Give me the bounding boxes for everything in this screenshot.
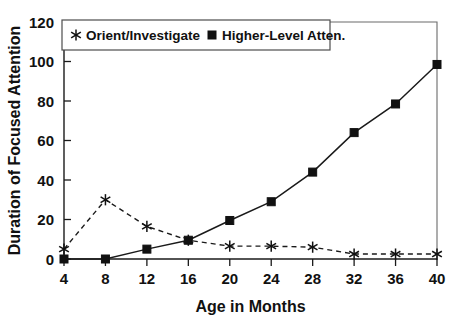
x-tick-label: 36 — [387, 270, 404, 287]
x-tick-label: 4 — [60, 270, 69, 287]
y-tick-label: 80 — [37, 93, 54, 110]
data-point-marker-square — [184, 236, 192, 244]
line-chart-canvas: 020406080100120481216202428323640Age in … — [0, 0, 451, 323]
x-tick-label: 28 — [304, 270, 321, 287]
data-point-marker-square — [143, 245, 151, 253]
x-axis-title: Age in Months — [195, 298, 305, 315]
legend-entry-1[interactable]: Orient/Investigate — [71, 28, 200, 43]
x-tick-label: 40 — [429, 270, 446, 287]
x-tick-label: 16 — [180, 270, 197, 287]
data-point-marker-square — [309, 168, 317, 176]
y-tick-label: 20 — [37, 211, 54, 228]
legend-label: Orient/Investigate — [86, 28, 201, 43]
plot-frame — [64, 22, 437, 259]
y-tick-label: 60 — [37, 132, 54, 149]
y-tick-label: 100 — [29, 53, 54, 70]
data-point-marker-square — [350, 129, 358, 137]
series-line — [64, 200, 437, 254]
x-tick-label: 8 — [101, 270, 109, 287]
data-point-marker-square — [392, 100, 400, 108]
y-tick-label: 120 — [29, 14, 54, 31]
legend-marker-square — [208, 31, 216, 39]
x-tick-label: 32 — [346, 270, 363, 287]
y-tick-label: 0 — [46, 251, 54, 268]
data-point-marker-square — [60, 255, 68, 263]
x-tick-label: 24 — [263, 270, 280, 287]
x-tick-label: 20 — [221, 270, 238, 287]
data-point-marker-square — [433, 60, 441, 68]
legend-label: Higher-Level Atten. — [222, 28, 345, 43]
data-point-marker-square — [267, 198, 275, 206]
legend-entry-2[interactable]: Higher-Level Atten. — [208, 28, 345, 43]
data-point-marker-square — [226, 216, 234, 224]
x-tick-label: 12 — [139, 270, 156, 287]
y-axis-title: Duration of Focused Attention — [6, 26, 23, 256]
series-1 — [59, 194, 442, 260]
chart-figure: 020406080100120481216202428323640Age in … — [0, 0, 451, 323]
y-tick-label: 40 — [37, 172, 54, 189]
data-point-marker-square — [101, 255, 109, 263]
chart-legend: Orient/InvestigateHigher-Level Atten. — [62, 20, 345, 50]
series-line — [64, 64, 437, 259]
series-2 — [60, 60, 441, 263]
